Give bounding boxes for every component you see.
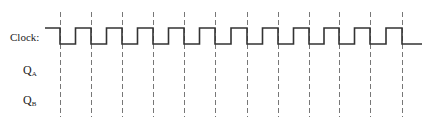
clock-label: Clock:: [10, 32, 39, 43]
clock-label-text: Clock:: [10, 31, 39, 43]
qb-label-subscript: B: [32, 100, 37, 108]
qa-label-text: Q: [23, 63, 32, 77]
clock-waveform: [45, 28, 422, 44]
qa-label: QA: [23, 64, 37, 78]
qb-label-text: Q: [23, 93, 32, 107]
qb-label: QB: [23, 94, 36, 108]
qa-label-subscript: A: [32, 70, 37, 78]
timing-diagram: Clock: QA QB: [0, 0, 436, 128]
waveform-canvas: [0, 0, 436, 128]
